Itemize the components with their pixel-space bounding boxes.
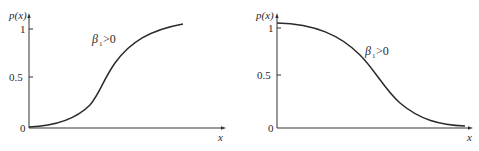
y-tick-label-0.5: 0.5 bbox=[257, 69, 271, 81]
x-axis-arrow-icon bbox=[468, 126, 473, 129]
annotation-beta: β 1 >0 bbox=[364, 44, 389, 60]
y-axis-label: p(x) bbox=[255, 9, 274, 22]
annotation-beta: β 1 >0 bbox=[91, 32, 116, 48]
svg-text:β: β bbox=[91, 32, 98, 46]
x-axis-arrow-icon bbox=[221, 126, 226, 129]
logistic-curve-decreasing bbox=[277, 23, 465, 126]
y-tick-label-0: 0 bbox=[268, 122, 274, 134]
svg-text:>0: >0 bbox=[103, 32, 116, 46]
left-chart: p(x) 1 0.5 0 x β 1 >0 bbox=[8, 9, 226, 143]
y-axis-label: p(x) bbox=[8, 9, 27, 22]
y-tick-label-1: 1 bbox=[268, 22, 274, 34]
x-axis-label: x bbox=[217, 131, 223, 143]
svg-text:β: β bbox=[364, 44, 371, 58]
y-axis-arrow-icon bbox=[27, 13, 30, 18]
x-axis-label: x bbox=[466, 131, 472, 143]
y-tick-label-1: 1 bbox=[20, 23, 26, 35]
y-tick-label-0.5: 0.5 bbox=[9, 71, 23, 83]
y-tick-label-0: 0 bbox=[20, 122, 26, 134]
y-axis-arrow-icon bbox=[275, 13, 278, 18]
svg-text:>0: >0 bbox=[376, 44, 389, 58]
figure: p(x) 1 0.5 0 x β 1 >0 p(x) 1 0.5 0 x β 1 bbox=[0, 0, 479, 151]
right-chart: p(x) 1 0.5 0 x β 1 >0 bbox=[255, 9, 473, 143]
